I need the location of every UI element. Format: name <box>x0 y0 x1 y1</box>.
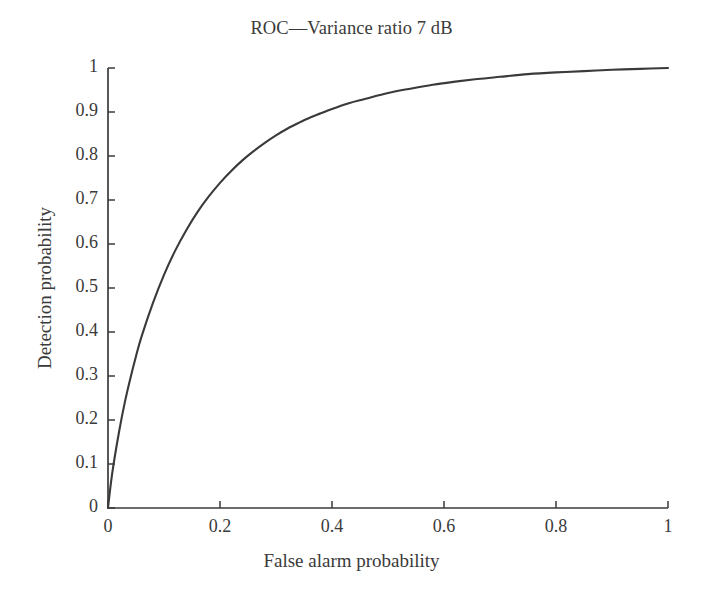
x-tick-label: 0.4 <box>302 516 362 537</box>
plot-canvas <box>0 0 703 597</box>
x-tick-label: 0.6 <box>414 516 474 537</box>
roc-chart-figure: ROC—Variance ratio 7 dB 00.10.20.30.40.5… <box>0 0 703 597</box>
x-tick-label: 1 <box>638 516 698 537</box>
x-axis-title: False alarm probability <box>0 550 703 572</box>
x-tick-label: 0 <box>78 516 138 537</box>
x-tick-label: 0.2 <box>190 516 250 537</box>
axes-group <box>108 68 668 508</box>
tick-marks-group <box>108 68 668 508</box>
roc-curve-line <box>108 68 668 508</box>
x-tick-label: 0.8 <box>526 516 586 537</box>
y-axis-title: Detection probability <box>34 68 64 508</box>
